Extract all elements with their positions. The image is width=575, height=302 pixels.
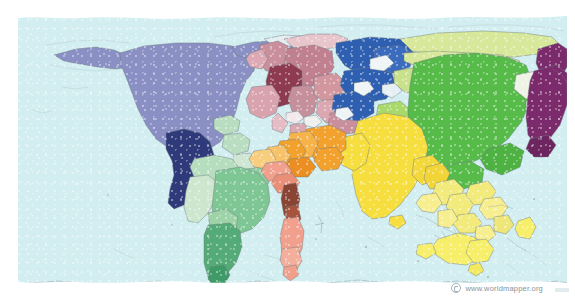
cartogram-map: .cst{stroke:#6d7b82;stroke-width:.45;str… [18,9,567,294]
attribution-text: www.worldmapper.org [465,284,543,293]
copyright-circle-icon [451,283,461,293]
attribution: www.worldmapper.org [451,283,543,293]
worldmapper-cartogram-figure: .cst{stroke:#6d7b82;stroke-width:.45;str… [0,0,575,302]
region-africa [261,161,325,281]
region-south-america [184,155,270,293]
ocean-background: .cst{stroke:#6d7b82;stroke-width:.45;str… [18,9,567,294]
corner-mark [555,288,569,292]
region-japan [526,43,567,157]
